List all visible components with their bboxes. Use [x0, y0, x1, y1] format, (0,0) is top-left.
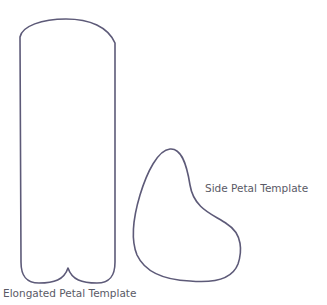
templates-canvas: [0, 0, 327, 305]
side-petal-label: Side Petal Template: [205, 182, 308, 194]
elongated-petal-label: Elongated Petal Template: [3, 287, 136, 299]
side-petal-shape: [133, 149, 240, 282]
elongated-petal-shape: [20, 19, 115, 283]
